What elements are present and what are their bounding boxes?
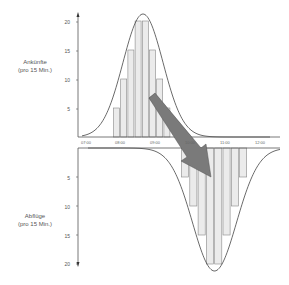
x-tick: 09:00 [150, 140, 160, 145]
y-tick: 5 [56, 106, 70, 112]
bar [121, 79, 127, 137]
departures-label-line1: Abflüge [10, 212, 60, 220]
bar [231, 148, 238, 206]
x-tick: 08:00 [115, 140, 125, 145]
arrivals-label: Ankünfte (pro 15 Min.) [10, 58, 60, 74]
x-tick: 10:00 [185, 140, 195, 145]
chart-svg [0, 0, 289, 285]
bar [114, 108, 120, 137]
x-tick: 07:00 [81, 140, 91, 145]
bar [240, 148, 247, 177]
y-tick: 15 [56, 48, 70, 54]
y-tick: 20 [56, 19, 70, 25]
departures-label: Abflüge (pro 15 Min.) [10, 212, 60, 228]
x-tick: 12:00 [255, 140, 265, 145]
bar [128, 50, 134, 137]
bar [135, 21, 141, 137]
bar [142, 21, 148, 137]
y-tick: 20 [56, 261, 70, 267]
x-tick: 11:00 [220, 140, 230, 145]
bar [223, 148, 230, 235]
y-tick: 10 [56, 204, 70, 210]
y-tick: 15 [56, 233, 70, 239]
y-tick: 10 [56, 77, 70, 83]
bar [215, 148, 222, 264]
upper-y-axis-arrow-icon [77, 12, 80, 17]
arrivals-label-line1: Ankünfte [10, 58, 60, 66]
y-tick: 5 [56, 175, 70, 181]
departures-label-line2: (pro 15 Min.) [10, 220, 60, 228]
arrivals-label-line2: (pro 15 Min.) [10, 66, 60, 74]
arrivals-bars [114, 21, 170, 137]
lower-y-axis-arrow-icon [77, 262, 80, 267]
chart-container: 07:00 08:00 09:00 10:00 11:00 12:00 20 1… [0, 0, 289, 285]
